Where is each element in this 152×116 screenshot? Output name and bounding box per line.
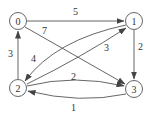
node-label-0: 0 (16, 16, 21, 27)
edge-0-1: 5 (27, 6, 124, 21)
node-0: 0 (10, 13, 27, 30)
edge-weight-1-3: 2 (138, 41, 143, 52)
edge-weight-0-3: 7 (42, 25, 47, 36)
node-label-1: 1 (132, 16, 137, 27)
edge-weight-1-2: 4 (31, 53, 36, 64)
directed-graph: 5 7 2 4 3 3 2 1 0 1 2 3 (0, 0, 152, 116)
edge-2-0: 3 (8, 31, 18, 79)
edge-weight-2-3: 2 (71, 71, 76, 82)
node-label-2: 2 (16, 83, 21, 94)
node-2: 2 (10, 80, 27, 97)
node-1: 1 (126, 13, 143, 30)
node-3: 3 (126, 81, 143, 98)
edge-weight-2-0: 3 (8, 48, 13, 59)
edge-3-2: 1 (28, 91, 126, 113)
edge-weight-3-2: 1 (71, 102, 76, 113)
edge-weight-2-1: 3 (104, 42, 109, 53)
edge-1-3: 2 (134, 30, 143, 79)
edge-weight-0-1: 5 (73, 6, 78, 17)
edge-2-3: 2 (27, 71, 124, 86)
node-label-3: 3 (132, 84, 137, 95)
